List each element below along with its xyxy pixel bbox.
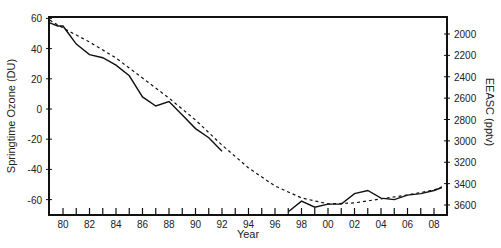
x-tick-label: 92: [216, 219, 228, 230]
x-tick-label: 06: [402, 219, 414, 230]
ozone-eeasc-chart: 808284868890929496980002040608 6040200-2…: [0, 0, 501, 248]
y-right-tick-label: 3600: [454, 200, 477, 211]
y-axis-right-label: EEASC (pptv): [484, 78, 496, 146]
eeasc-line: [50, 20, 442, 204]
y-right-tick-label: 2400: [454, 72, 477, 83]
x-tick-label: 96: [269, 219, 281, 230]
x-tick-label: 02: [349, 219, 361, 230]
y-left-tick-label: 0: [36, 104, 42, 115]
y-right-tick-label: 3400: [454, 179, 477, 190]
plot-border: [49, 17, 447, 215]
y-left-tick-label: 20: [31, 74, 43, 85]
x-tick-label: 82: [84, 219, 96, 230]
y-right-tick-label: 2800: [454, 115, 477, 126]
ozone-line: [50, 23, 222, 151]
y-left-tick-label: -60: [28, 195, 43, 206]
x-tick-label: 80: [57, 219, 69, 230]
x-tick-label: 98: [296, 219, 308, 230]
y-left-tick-label: -20: [28, 134, 43, 145]
x-tick-label: 90: [190, 219, 202, 230]
y-right-tick-label: 2600: [454, 93, 477, 104]
y-axis-left-label: Springtime Ozone (DU): [5, 59, 17, 173]
x-tick-label: 08: [428, 219, 440, 230]
y-left-tick-label: -40: [28, 164, 43, 175]
y-right-tick-label: 3000: [454, 136, 477, 147]
y-right-tick-label: 2200: [454, 50, 477, 61]
x-tick-label: 86: [137, 219, 149, 230]
series-layer: [50, 20, 442, 212]
x-tick-label: 84: [110, 219, 122, 230]
y-right-tick-label: 3200: [454, 157, 477, 168]
y-axis-right: 200022002400260028003000320034003600: [444, 29, 477, 211]
x-tick-label: 04: [375, 219, 387, 230]
x-tick-label: 88: [163, 219, 175, 230]
y-right-tick-label: 2000: [454, 29, 477, 40]
x-axis: 808284868890929496980002040608: [57, 208, 440, 230]
x-tick-label: 00: [322, 219, 334, 230]
y-left-tick-label: 60: [31, 13, 43, 24]
x-axis-label: Year: [237, 228, 260, 240]
plot-frame: [49, 17, 447, 215]
y-left-tick-label: 40: [31, 44, 43, 55]
